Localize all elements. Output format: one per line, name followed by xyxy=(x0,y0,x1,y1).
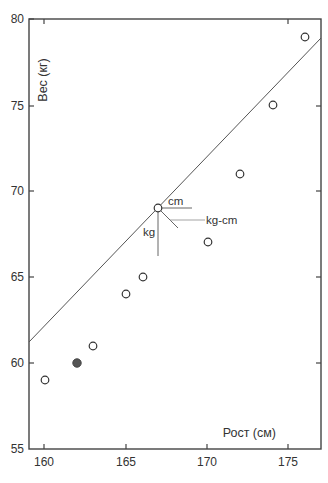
data-point xyxy=(301,33,309,41)
annotation-cm: cm xyxy=(168,195,183,207)
y-axis xyxy=(29,19,321,363)
y-tick-label: 55 xyxy=(11,442,25,456)
annotation-kg: kg xyxy=(143,226,155,238)
y-axis-title: Вес (кг) xyxy=(36,58,50,101)
data-point xyxy=(204,238,212,246)
data-point xyxy=(154,204,162,212)
data-points xyxy=(41,33,309,384)
data-point xyxy=(139,273,147,281)
x-tick-label: 165 xyxy=(116,455,136,469)
data-point xyxy=(89,342,97,350)
scatter-chart: 80 75 70 65 60 55 160 165 170 175 Вес (к… xyxy=(0,0,328,483)
x-axis-title: Рост (см) xyxy=(223,426,276,440)
data-point xyxy=(122,290,130,298)
y-tick-label: 65 xyxy=(11,270,25,284)
y-tick-label: 60 xyxy=(11,356,25,370)
y-tick-label: 80 xyxy=(11,12,25,26)
highlighted-data-point xyxy=(73,359,81,367)
x-tick-label: 160 xyxy=(34,455,54,469)
regression-line xyxy=(29,38,321,342)
data-point xyxy=(41,376,49,384)
y-tick-label: 70 xyxy=(11,184,25,198)
y-tick-label: 75 xyxy=(11,99,25,113)
x-axis xyxy=(44,19,288,449)
annotation-kg-cm: kg-cm xyxy=(206,214,237,226)
data-point xyxy=(236,170,244,178)
x-tick-label: 170 xyxy=(197,455,217,469)
data-point xyxy=(269,101,277,109)
x-tick-label: 175 xyxy=(278,455,298,469)
residual-annotation xyxy=(158,208,205,256)
